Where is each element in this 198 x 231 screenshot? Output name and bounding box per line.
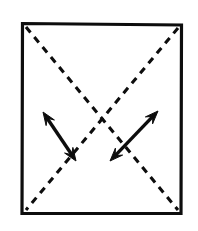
- figure-container: [0, 0, 198, 231]
- diagram-svg: [0, 0, 198, 231]
